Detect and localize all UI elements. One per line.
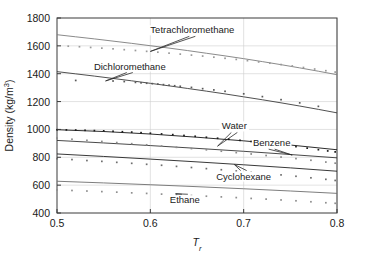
data-point [56,137,58,139]
data-point [334,71,336,73]
data-point [191,54,193,56]
data-point [194,135,196,137]
data-point [168,84,170,86]
data-point [86,190,88,192]
data-point [131,143,133,145]
data-point [146,144,148,146]
data-point [112,80,114,82]
data-point [235,152,237,154]
data-point [103,130,105,132]
series-label: Cyclohexane [216,171,271,182]
data-point [265,198,267,200]
data-point [157,51,159,53]
data-point [86,139,88,141]
data-point [176,146,178,148]
data-point [202,55,204,57]
data-point [327,150,329,152]
data-point [67,45,69,47]
data-point [112,48,114,50]
data-point [161,193,163,195]
data-point [161,133,163,135]
data-point [161,145,163,147]
data-point [122,131,124,133]
y-tick-label: 800 [32,151,50,163]
chart-canvas: 0.50.60.70.84006008001000120014001600180… [0,0,366,261]
data-point [101,191,103,193]
data-point [325,161,327,163]
data-point [206,136,208,138]
data-point [206,149,208,151]
data-point [310,177,312,179]
data-point [157,83,159,85]
data-point [146,163,148,165]
data-point [172,134,174,136]
data-point [280,64,282,66]
data-point [131,162,133,164]
data-point [325,70,327,72]
data-point [116,162,118,164]
series-label: Benzene [253,137,291,148]
data-point [123,81,125,83]
data-point [146,82,148,84]
data-point [206,195,208,197]
data-point [202,88,204,90]
data-point [66,129,68,131]
data-point [235,197,237,199]
data-point [250,198,252,200]
data-point [220,196,222,198]
data-point [243,93,245,95]
data-point [295,200,297,202]
data-point [71,190,73,192]
data-point [310,201,312,203]
data-point [224,90,226,92]
data-point [79,46,81,48]
data-point [151,83,153,85]
data-point [135,50,137,52]
data-point [314,68,316,70]
data-point [262,96,264,98]
x-tick-label: 0.8 [330,217,345,229]
data-point [140,82,142,84]
data-point [176,166,178,168]
y-tick-label: 1000 [27,123,51,135]
data-point [123,49,125,51]
data-point [75,80,77,82]
data-point [310,159,312,161]
data-point [183,135,185,137]
data-point [56,189,58,191]
y-tick-label: 1200 [27,96,51,108]
series-label: Tetrachloromethane [150,24,234,35]
data-point [318,149,320,151]
series-label: Dichloromethane [94,61,166,72]
data-point [101,161,103,163]
data-point [220,150,222,152]
data-point [213,56,215,58]
data-point [303,67,305,69]
x-tick-label: 0.7 [236,217,251,229]
y-tick-label: 1800 [27,12,51,24]
data-point [71,159,73,161]
data-point [334,202,336,204]
data-point [56,158,58,160]
data-point [318,106,320,108]
data-point [112,130,114,132]
data-point [280,99,282,101]
data-point [265,155,267,157]
data-point [247,60,249,62]
data-point [161,164,163,166]
data-point [168,52,170,54]
data-point [295,175,297,177]
data-point [280,174,282,176]
data-point [325,178,327,180]
data-point [269,62,271,64]
data-point [163,84,165,86]
data-point [191,148,193,150]
data-point [101,141,103,143]
data-point [224,57,226,59]
data-point [280,199,282,201]
data-point [217,137,219,139]
data-point [191,167,193,169]
data-point [206,168,208,170]
data-point [235,59,237,61]
data-point [116,142,118,144]
